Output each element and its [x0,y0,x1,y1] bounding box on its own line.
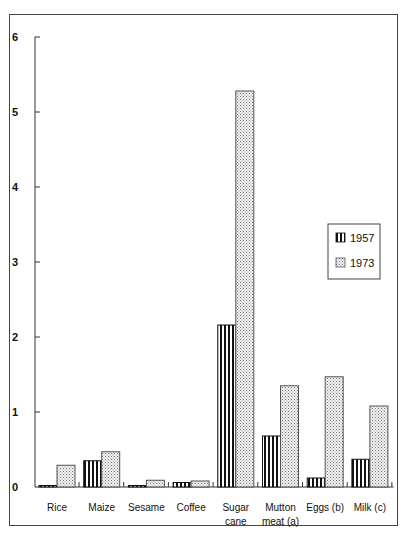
bar-1957 [218,325,236,487]
bar-1973 [281,386,299,487]
bar-1957 [128,486,146,488]
y-tick-label: 2 [12,331,18,343]
y-axis: 0123456 [12,31,40,493]
x-tick-label: meat (a) [262,516,299,527]
bar-1973 [191,481,209,487]
legend: 1957 1973 [328,224,380,279]
y-tick-label: 0 [12,481,18,493]
bar-1957 [39,486,57,488]
x-tick-label: Maize [88,502,115,513]
bar-1957 [263,436,281,487]
y-tick-label: 3 [12,256,18,268]
y-tick-label: 5 [12,106,18,118]
x-tick-label: Mutton [265,502,296,513]
bars [39,91,388,487]
x-tick-label: Rice [47,502,67,513]
bar-1957 [352,459,370,487]
legend-label-1957: 1957 [350,232,374,244]
y-tick-label: 1 [12,406,18,418]
bar-chart: 0123456 RiceMaizeSesameCoffeeSugarcaneMu… [0,0,413,541]
y-tick-label: 4 [12,181,19,193]
x-tick-label: cane [225,516,247,527]
legend-swatch-1957 [336,233,345,242]
bar-1973 [102,452,120,487]
bar-1973 [57,465,75,487]
bar-1973 [146,480,164,487]
x-tick-label: Sugar [222,502,249,513]
x-tick-label: Milk (c) [354,502,386,513]
bar-1973 [236,91,254,487]
bar-1973 [370,406,388,487]
legend-label-1973: 1973 [350,257,374,269]
x-tick-label: Eggs (b) [306,502,344,513]
x-tick-label: Coffee [176,502,206,513]
bar-1957 [173,483,191,488]
bar-1973 [325,377,343,487]
bar-1957 [307,478,325,487]
legend-swatch-1973 [336,258,345,267]
bar-1957 [84,461,102,487]
x-axis: RiceMaizeSesameCoffeeSugarcaneMuttonmeat… [35,482,394,527]
y-tick-label: 6 [12,31,18,43]
x-tick-label: Sesame [128,502,165,513]
